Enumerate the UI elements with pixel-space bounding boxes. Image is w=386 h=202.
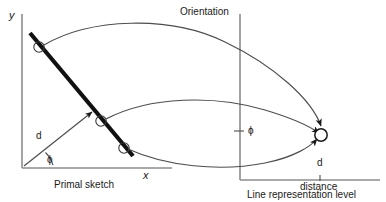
mapping-curve-1 [44,23,321,126]
mapping-curves [44,23,321,167]
right-orientation-tick-label: ϕ [248,126,254,136]
converged-point-group [315,129,327,141]
left-distance-label: d [36,131,42,141]
right-panel-axes [234,14,380,181]
figure-root: y x d ϕ Primal sketch Orientation ϕ d di… [0,0,386,202]
left-y-axis-label: y [9,10,15,21]
diagram-canvas [0,0,386,202]
left-x-axis-label: x [143,170,149,181]
mapping-curve-2 [106,100,319,133]
converged-point [315,129,327,141]
left-panel-caption: Primal sketch [54,180,114,190]
distance-vector-arrow [24,112,92,166]
right-panel-header: Orientation [180,7,229,17]
mapping-curve-3 [128,139,317,167]
left-panel-axes [22,14,172,168]
right-panel-caption: Line representation level [247,190,356,200]
primal-sketch-line-group [30,33,133,156]
primal-sketch-line [30,33,133,156]
right-distance-tick-label: d [317,158,323,168]
distance-vector-group [24,112,92,166]
left-angle-label: ϕ [47,155,53,165]
